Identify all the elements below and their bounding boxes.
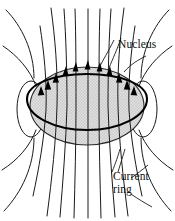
physics-diagram-figure: Nucleus Current ring xyxy=(0,0,175,221)
field-line-mid-left-top xyxy=(3,46,36,86)
label-nucleus: Nucleus xyxy=(118,38,157,50)
field-line-mid-right-top xyxy=(139,46,172,86)
nucleus-body xyxy=(30,67,144,145)
label-current-ring-line1: Current xyxy=(113,170,150,182)
nucleus-leader-1 xyxy=(99,40,114,68)
arrow-head-6 xyxy=(85,60,91,70)
field-line-outer-left-bottom xyxy=(4,138,34,211)
label-current-ring-line2: ring xyxy=(113,183,132,196)
arrow-head-5 xyxy=(73,62,79,72)
diagram-canvas: Nucleus Current ring xyxy=(0,0,175,221)
field-line-outer-left-top xyxy=(6,10,34,78)
